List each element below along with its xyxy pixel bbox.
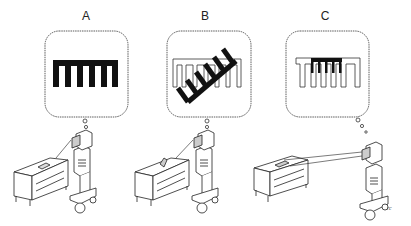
thought-bubble-c [286, 31, 369, 117]
tilted-comb-b [178, 49, 236, 102]
robot-perception-diagram [0, 0, 411, 226]
artist-signature: rc [387, 205, 392, 211]
chest-of-drawers-c [254, 156, 308, 202]
solid-comb-a [53, 60, 118, 87]
thought-bubble-b [167, 31, 251, 117]
robot-c [360, 142, 388, 220]
chest-of-drawers-a [14, 158, 68, 206]
robot-b [192, 130, 218, 213]
chest-of-drawers-b [135, 158, 189, 206]
view-line-a [56, 140, 71, 158]
outline-pattern-c [296, 58, 360, 87]
view-line-b [176, 140, 193, 158]
robot-a [70, 130, 96, 213]
